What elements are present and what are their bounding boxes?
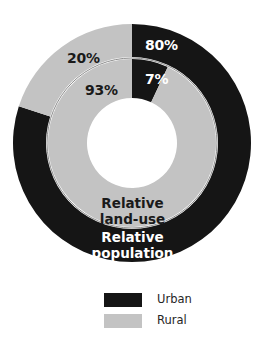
outer-ring-caption: Relative population xyxy=(0,229,265,261)
legend-label-urban: Urban xyxy=(157,294,192,306)
chart-legend: Urban Rural xyxy=(104,289,192,331)
inner-ring-rural-value: 93% xyxy=(85,83,118,97)
outer-ring-rural-value: 20% xyxy=(67,51,100,65)
inner-ring-caption-line1: Relative xyxy=(0,195,265,211)
legend-label-rural: Rural xyxy=(157,315,187,327)
legend-item-urban: Urban xyxy=(104,289,192,310)
legend-swatch-rural xyxy=(104,314,142,328)
outer-ring-caption-line1: Relative xyxy=(0,229,265,245)
legend-item-rural: Rural xyxy=(104,310,192,331)
inner-ring-caption: Relative land-use xyxy=(0,195,265,227)
inner-ring-urban-value: 7% xyxy=(145,72,168,86)
legend-swatch-urban xyxy=(104,293,142,307)
outer-ring-urban-value: 80% xyxy=(145,38,178,52)
inner-ring-caption-line2: land-use xyxy=(0,211,265,227)
outer-ring-caption-line2: population xyxy=(0,245,265,261)
double-donut-chart: 80% 20% 7% 93% Relative land-use Relativ… xyxy=(0,0,265,341)
